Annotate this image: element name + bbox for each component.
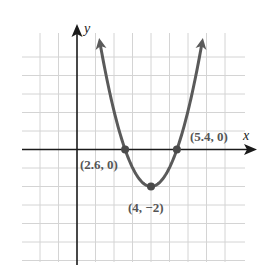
label-vertex: (4, −2) bbox=[128, 200, 164, 215]
point-left-intercept bbox=[121, 146, 129, 154]
label-left-intercept: (2.6, 0) bbox=[80, 157, 118, 172]
point-right-intercept bbox=[173, 146, 181, 154]
grid-lines bbox=[22, 33, 245, 262]
point-vertex bbox=[147, 183, 155, 191]
graph-figure: x y (2.6, 0) (4, −2) (5.4, 0) bbox=[0, 0, 269, 277]
y-axis-label: y bbox=[82, 21, 91, 36]
label-right-intercept: (5.4, 0) bbox=[190, 129, 228, 144]
x-axis-label: x bbox=[242, 128, 250, 143]
plot-area: x y (2.6, 0) (4, −2) (5.4, 0) bbox=[0, 0, 269, 277]
